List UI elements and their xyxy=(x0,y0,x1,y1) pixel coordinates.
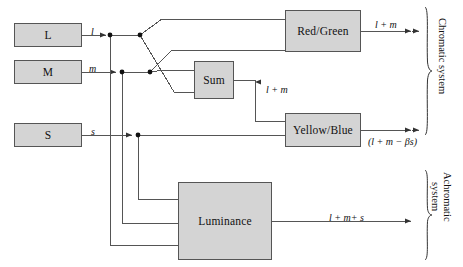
box-cone-m[interactable]: M xyxy=(14,60,82,84)
edge-label-s-signal: s xyxy=(91,127,95,137)
box-luminance[interactable]: Luminance xyxy=(178,182,272,260)
box-yellow-blue[interactable]: Yellow/Blue xyxy=(285,113,361,147)
color-vision-diagram: L M S Sum Red/Green Yellow/Blue Luminanc… xyxy=(0,0,463,267)
junction-dots xyxy=(108,33,153,138)
edge-label-m-signal: m xyxy=(89,64,96,74)
box-cone-l[interactable]: L xyxy=(14,23,82,47)
box-red-green[interactable]: Red/Green xyxy=(285,10,361,52)
edge-label-luminance-output: l + m+ s xyxy=(329,213,364,223)
box-label: Yellow/Blue xyxy=(293,124,353,136)
group-label-achromatic-line1: Achromatic xyxy=(442,172,453,222)
box-label: S xyxy=(45,129,52,141)
edge-label-red-green-output: l + m xyxy=(375,20,397,30)
junction-dot xyxy=(136,133,141,138)
wire-l-to-sum xyxy=(140,35,194,92)
wire-l-to-red-green xyxy=(140,19,285,35)
wire-sum-out-drop xyxy=(234,80,255,82)
box-sum[interactable]: Sum xyxy=(194,61,234,99)
junction-dot xyxy=(108,33,113,38)
curly-brace-right-chromatic xyxy=(424,7,433,135)
junction-dot xyxy=(120,70,125,75)
box-label: Luminance xyxy=(198,215,252,227)
wire-m-to-luminance xyxy=(122,72,178,223)
edge-label-l-signal: l xyxy=(91,27,94,37)
edge-label-sum-output: l + m xyxy=(266,85,288,95)
box-label: Red/Green xyxy=(297,25,349,37)
box-label: Sum xyxy=(203,74,225,86)
group-label-achromatic-line2: system xyxy=(430,182,441,211)
wire-l-to-luminance xyxy=(110,35,178,245)
wire-s-to-luminance xyxy=(138,135,178,199)
junction-dot xyxy=(148,70,153,75)
junction-dot xyxy=(138,33,143,38)
edge-label-yellow-blue-output: (l + m − βs) xyxy=(368,137,417,147)
box-label: M xyxy=(43,66,53,78)
box-label: L xyxy=(44,29,51,41)
group-label-chromatic-system: Chromatic system xyxy=(437,18,448,94)
box-cone-s[interactable]: S xyxy=(14,123,82,147)
wire-m-to-sum xyxy=(150,70,194,72)
